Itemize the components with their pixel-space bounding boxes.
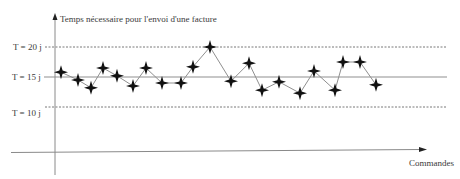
reference-lines <box>44 47 447 107</box>
star-marker-icon <box>174 76 188 90</box>
series-line <box>61 47 376 93</box>
star-marker-icon <box>126 79 140 93</box>
axes <box>11 13 427 175</box>
y-axis-title: Temps nécessaire pour l'envoi d'une fact… <box>60 15 217 24</box>
ref-label-15: T = 15 j <box>12 73 41 82</box>
star-marker-icon <box>186 60 200 74</box>
x-axis <box>11 150 420 153</box>
y-axis-arrow-icon <box>53 13 58 20</box>
x-axis-title: Commandes <box>409 159 454 168</box>
x-axis-arrow-icon <box>419 147 427 152</box>
star-marker-icon <box>84 81 98 95</box>
star-marker-icon <box>293 86 307 100</box>
data-series <box>54 40 383 100</box>
star-marker-icon <box>369 78 383 92</box>
star-marker-icon <box>353 55 367 69</box>
control-chart <box>0 0 460 179</box>
star-marker-icon <box>110 69 124 83</box>
star-marker-icon <box>71 73 85 87</box>
ref-label-20: T = 20 j <box>13 43 42 52</box>
star-marker-icon <box>96 61 110 75</box>
star-marker-icon <box>255 83 269 97</box>
ref-label-10: T = 10 j <box>12 109 41 118</box>
star-marker-icon <box>203 40 217 54</box>
star-marker-icon <box>336 55 350 69</box>
